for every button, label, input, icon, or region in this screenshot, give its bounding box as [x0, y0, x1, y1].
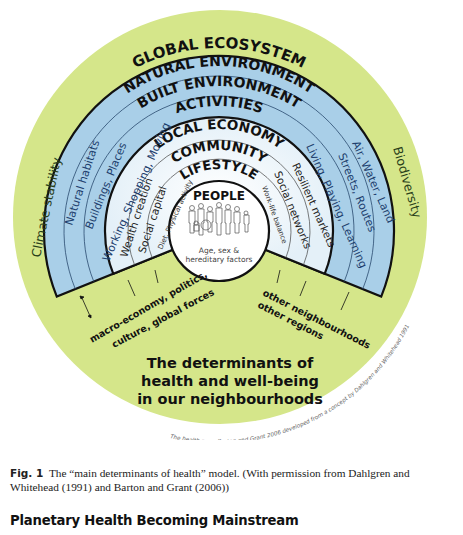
figure-label: Fig. 1 — [10, 467, 43, 479]
figure-caption-text: The “main determinants of health” model.… — [10, 467, 410, 493]
diagram-title-line3: in our neighbourhoods — [137, 391, 323, 407]
people-label: PEOPLE — [193, 189, 245, 203]
diagram-title-line1: The determinants of — [147, 355, 314, 371]
section-heading: Planetary Health Becoming Mainstream — [10, 513, 299, 528]
people-sub-line2: hereditary factors — [185, 255, 252, 264]
figure-caption: Fig. 1 The “main determinants of health”… — [10, 466, 455, 494]
people-sub-line1: Age, sex & — [199, 246, 239, 255]
health-map-diagram: GLOBAL ECOSYSTEM NATURAL ENVIRONMENT BUI… — [0, 0, 463, 440]
diagram-title-line2: health and well-being — [141, 373, 319, 389]
